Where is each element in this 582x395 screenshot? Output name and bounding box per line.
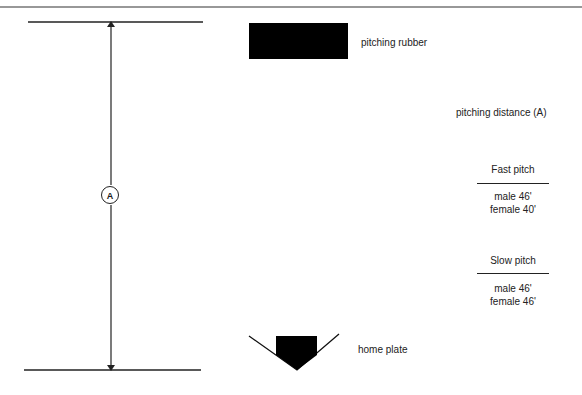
pitching-rubber-shape	[249, 23, 348, 59]
slow-pitch-divider	[477, 273, 549, 274]
slow-pitch-male: male 46'	[473, 283, 553, 295]
fast-pitch-female: female 40'	[473, 204, 553, 216]
dimension-marker-a: A	[101, 186, 119, 204]
fast-pitch-heading: Fast pitch	[473, 164, 553, 176]
fast-pitch-divider	[477, 183, 549, 184]
home-plate-shape	[276, 336, 317, 370]
home-plate-label: home plate	[358, 344, 407, 356]
slow-pitch-female: female 46'	[473, 296, 553, 308]
slow-pitch-heading: Slow pitch	[473, 255, 553, 267]
pitching-distance-label: pitching distance (A)	[456, 107, 547, 119]
fast-pitch-male: male 46'	[473, 191, 553, 203]
pitching-rubber-label: pitching rubber	[361, 37, 427, 49]
